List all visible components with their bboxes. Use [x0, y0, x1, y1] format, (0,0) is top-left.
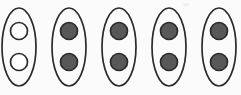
- ellipse-5-outline: [202, 8, 236, 86]
- circle-5-bottom[interactable]: [211, 54, 228, 71]
- figure-canvas: [0, 0, 241, 95]
- ellipse-4[interactable]: [152, 8, 186, 86]
- circle-4-bottom[interactable]: [161, 54, 178, 71]
- circle-3-top[interactable]: [111, 23, 128, 40]
- ellipse-1-outline: [2, 8, 36, 86]
- ellipse-3[interactable]: [102, 8, 136, 86]
- circle-3-bottom[interactable]: [111, 54, 128, 71]
- circle-2-bottom[interactable]: [61, 54, 78, 71]
- ellipse-2-outline: [52, 8, 86, 86]
- ellipse-4-outline: [152, 8, 186, 86]
- ellipse-1[interactable]: [2, 8, 36, 86]
- circle-1-top[interactable]: [11, 23, 28, 40]
- circle-1-bottom[interactable]: [11, 54, 28, 71]
- circle-2-top[interactable]: [61, 23, 78, 40]
- ellipse-2[interactable]: [52, 8, 86, 86]
- circle-5-top[interactable]: [211, 23, 228, 40]
- ellipse-row-diagram: [0, 0, 241, 95]
- ellipse-3-outline: [102, 8, 136, 86]
- circle-4-top[interactable]: [161, 23, 178, 40]
- ellipse-5[interactable]: [202, 8, 236, 86]
